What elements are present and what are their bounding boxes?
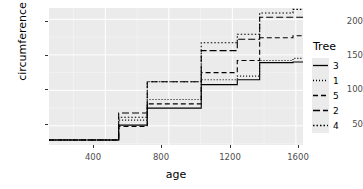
y-tick-mark-200: [45, 21, 48, 22]
plot-area: [49, 8, 303, 145]
legend-item-1[interactable]: 1: [312, 73, 363, 88]
legend-label-2: 2: [333, 106, 339, 116]
x-axis-title: age: [49, 168, 303, 181]
y-tick-mark-150: [45, 55, 48, 56]
legend-label-5: 5: [333, 91, 339, 101]
series-line-2: [49, 17, 303, 140]
y-tick-mark-100: [45, 89, 48, 90]
legend-label-4: 4: [333, 121, 339, 131]
legend-item-2[interactable]: 2: [312, 103, 363, 118]
legend-item-5[interactable]: 5: [312, 88, 363, 103]
series-line-4: [49, 9, 303, 140]
legend-key-5: [312, 88, 329, 103]
legend-key-2: [312, 103, 329, 118]
x-tick-label-1600: 1600: [278, 152, 318, 162]
series-line-3: [49, 62, 303, 140]
y-tick-label-200: 200: [335, 17, 363, 26]
major-gridlines: [49, 8, 303, 145]
plot-panel: [49, 8, 303, 145]
legend-key-4: [312, 118, 329, 133]
data-series-group: [49, 9, 303, 140]
legend-label-1: 1: [333, 76, 339, 86]
legend-key-3: [312, 58, 329, 73]
x-tick-mark-800: [161, 145, 162, 148]
y-axis-title: circumference: [16, 0, 29, 102]
legend-title: Tree: [312, 40, 363, 53]
x-tick-mark-400: [93, 145, 94, 148]
x-tick-label-800: 800: [141, 152, 181, 162]
x-tick-label-400: 400: [73, 152, 113, 162]
legend-key-1: [312, 73, 329, 88]
x-tick-mark-1600: [298, 145, 299, 148]
series-line-1: [49, 58, 303, 140]
step-chart: circumference 200 150 100 50 400 800 120…: [0, 0, 363, 189]
y-tick-mark-50: [45, 124, 48, 125]
legend-label-3: 3: [333, 61, 339, 71]
series-line-5: [49, 36, 303, 140]
x-tick-label-1200: 1200: [210, 152, 250, 162]
legend-item-4[interactable]: 4: [312, 118, 363, 133]
x-tick-mark-1200: [230, 145, 231, 148]
legend-items: 31524: [312, 58, 363, 133]
minor-gridlines: [49, 8, 303, 145]
legend: Tree 31524: [312, 40, 363, 133]
legend-item-3[interactable]: 3: [312, 58, 363, 73]
